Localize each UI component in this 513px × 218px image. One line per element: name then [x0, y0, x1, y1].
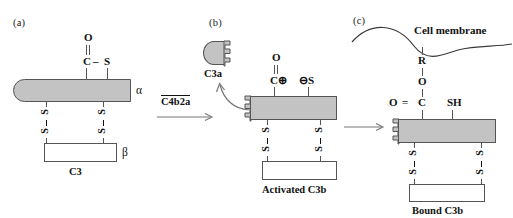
caption-bound-c3b: Bound C3b — [412, 205, 463, 216]
convertase-arrow — [157, 112, 221, 124]
carbonyl-oxygen-atom: O — [389, 97, 398, 108]
cell-membrane-label: Cell membrane — [414, 24, 486, 36]
alpha-chain-bar-a — [13, 79, 131, 102]
double-bond-a — [86, 45, 92, 55]
thioester-carbon-a: C — [83, 56, 91, 67]
thioester-oxygen-a: O — [84, 32, 93, 43]
thioester-carbon-cation-b: C⊕ — [270, 75, 287, 86]
thioester-bond-dash-a: – — [93, 56, 99, 67]
alpha-prime-chain-bar-b — [250, 96, 337, 120]
ester-oxygen-atom: O — [418, 76, 427, 87]
beta-chain-bar-b — [262, 161, 337, 180]
complement-activation-figure: (a) O C – S α S S S S β C3 C4b2a (b) — [0, 0, 513, 218]
convertase-reagent-label: C4b2a — [161, 95, 190, 107]
r-group-atom: R — [418, 55, 426, 66]
binding-arrow — [344, 122, 392, 134]
beta-chain-bar-a — [44, 143, 117, 162]
thioester-oxygen-b: O — [272, 52, 281, 63]
alpha-chain-label-a: α — [136, 84, 142, 96]
carbonyl-double-bond-glyph: = — [402, 97, 408, 108]
caption-c3: C3 — [69, 166, 82, 177]
thioester-sulfur-a: S — [104, 56, 110, 67]
c3a-fragment-blob — [203, 41, 225, 65]
carbonyl-carbon-atom: C — [418, 97, 426, 108]
panel-label-b: (b) — [209, 17, 222, 28]
c3a-fragment-label: C3a — [204, 68, 222, 79]
beta-chain-label-a: β — [122, 146, 128, 158]
beta-chain-bar-c — [409, 184, 485, 202]
thiol-group-atom: SH — [447, 97, 462, 108]
alpha-prime-chain-bar-c — [398, 119, 496, 143]
c3a-jagged-edge — [224, 41, 235, 66]
panel-label-a: (a) — [13, 17, 25, 28]
thioester-sulfur-anion-b: ⊖S — [299, 75, 314, 86]
caption-activated-c3b: Activated C3b — [262, 184, 326, 195]
double-bond-b — [274, 65, 280, 74]
